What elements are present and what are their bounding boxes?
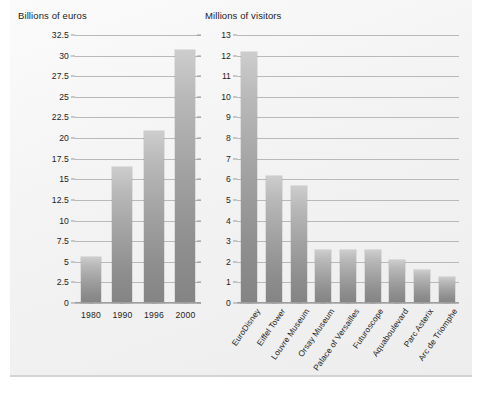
- bar: [112, 167, 132, 303]
- bar: [365, 250, 381, 303]
- bar: [291, 186, 307, 304]
- x-axis-tick-label: 1980: [81, 310, 101, 320]
- bar: [439, 277, 455, 303]
- x-axis-tick-label: 1996: [144, 310, 164, 320]
- bar: [315, 250, 331, 303]
- bars-left: 1980199019962000: [75, 35, 201, 303]
- plot-area-right: 012345678910111213 EuroDisneyEiffel Towe…: [237, 35, 459, 303]
- chart-page: Billions of euros 02.557.51012.51517.520…: [0, 0, 478, 394]
- bar: [389, 260, 405, 303]
- bar: [340, 250, 356, 303]
- x-axis-line-right: [237, 302, 459, 303]
- x-axis-tick-label: 2000: [175, 310, 195, 320]
- gridline: [75, 303, 201, 304]
- scanned-sheet: Billions of euros 02.557.51012.51517.520…: [10, 0, 472, 377]
- bar: [241, 52, 257, 304]
- bar: [81, 257, 101, 303]
- chart-millions-of-visitors: Millions of visitors 012345678910111213 …: [205, 10, 467, 350]
- chart-title-right: Millions of visitors: [205, 10, 281, 21]
- bar: [144, 131, 164, 303]
- x-axis-tick-label: 1990: [112, 310, 132, 320]
- chart-title-left: Billions of euros: [18, 10, 87, 21]
- chart-billions-of-euros: Billions of euros 02.557.51012.51517.520…: [18, 10, 208, 350]
- bar: [266, 176, 282, 303]
- bar: [414, 270, 430, 303]
- x-axis-line-left: [75, 302, 201, 303]
- plot-area-left: 02.557.51012.51517.52022.52527.53032.5 1…: [75, 35, 201, 303]
- bar: [175, 50, 195, 303]
- bars-right: EuroDisneyEiffel TowerLouvre MuseumOrsay…: [237, 35, 459, 303]
